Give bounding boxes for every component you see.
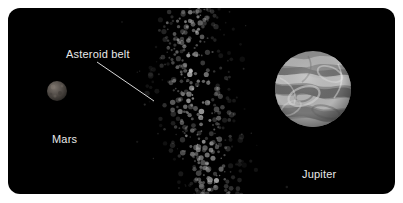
asteroid-particle: [200, 61, 205, 66]
asteroid-particle: [196, 134, 198, 136]
asteroid-particle: [189, 85, 194, 90]
asteroid-particle: [219, 66, 222, 69]
asteroid-particle: [180, 121, 185, 126]
asteroid-particle: [211, 98, 214, 101]
asteroid-particle: [199, 184, 205, 190]
asteroid-particle: [154, 89, 159, 94]
asteroid-particle: [217, 49, 220, 52]
asteroid-particle: [219, 167, 224, 172]
asteroid-particle: [188, 104, 193, 109]
asteroid-particle: [192, 156, 195, 159]
asteroid-particle: [214, 112, 215, 113]
asteroid-particle: [192, 153, 195, 156]
asteroid-particle: [187, 72, 192, 77]
asteroid-particle: [176, 20, 179, 23]
asteroid-particle: [196, 147, 201, 152]
asteroid-particle: [209, 131, 214, 136]
asteroid-particle: [178, 171, 183, 176]
asteroid-particle: [197, 80, 200, 83]
asteroid-particle: [182, 158, 184, 160]
asteroid-particle: [228, 71, 230, 73]
asteroid-particle: [223, 154, 225, 156]
asteroid-particle: [184, 77, 186, 79]
asteroid-particle: [196, 170, 202, 176]
asteroid-particle: [215, 143, 217, 145]
asteroid-particle: [202, 167, 205, 170]
asteroid-particle: [227, 110, 232, 115]
asteroid-particle: [164, 64, 166, 66]
asteroid-particle: [186, 92, 191, 97]
asteroid-particle: [180, 137, 185, 142]
asteroid-particle: [216, 87, 220, 91]
asteroid-particle: [225, 146, 230, 151]
asteroid-particle: [218, 53, 223, 58]
asteroid-particle: [243, 68, 245, 70]
asteroid-particle: [188, 36, 192, 40]
asteroid-particle: [182, 68, 183, 69]
asteroid-particle: [244, 108, 246, 110]
asteroid-particle: [227, 60, 229, 62]
asteroid-particle: [218, 8, 221, 10]
asteroid-particle: [227, 118, 231, 122]
asteroid-particle: [158, 117, 162, 121]
asteroid-particle: [185, 185, 186, 186]
asteroid-particle: [205, 192, 210, 194]
asteroid-particle: [239, 43, 242, 46]
asteroid-particle: [207, 37, 209, 39]
asteroid-particle: [213, 38, 217, 42]
asteroid-particle: [214, 182, 216, 184]
asteroid-particle: [286, 186, 289, 189]
asteroid-particle: [208, 119, 211, 122]
asteroid-particle: [220, 157, 222, 159]
illustration-canvas: Asteroid belt Mars Jupiter: [0, 0, 403, 203]
asteroid-particle: [149, 66, 153, 70]
asteroid-particle: [136, 141, 138, 143]
asteroid-particle: [197, 161, 200, 164]
asteroid-particle: [195, 11, 198, 14]
asteroid-particle: [202, 148, 206, 152]
asteroid-particle: [213, 104, 216, 107]
asteroid-particle: [230, 171, 232, 173]
asteroid-particle: [217, 123, 220, 126]
asteroid-particle: [121, 21, 123, 23]
asteroid-particle: [171, 49, 173, 51]
asteroid-particle: [236, 186, 241, 191]
asteroid-particle: [202, 140, 206, 144]
asteroid-particle: [193, 193, 195, 194]
asteroid-particle: [237, 161, 238, 162]
asteroid-particle: [162, 79, 164, 81]
asteroid-particle: [158, 17, 163, 22]
asteroid-particle: [239, 169, 243, 173]
asteroid-particle: [237, 162, 242, 167]
asteroid-particle: [173, 89, 175, 91]
asteroid-particle: [200, 160, 205, 165]
asteroid-particle: [224, 139, 226, 141]
asteroid-particle: [256, 145, 257, 146]
asteroid-particle: [229, 186, 234, 191]
asteroid-particle: [185, 134, 188, 137]
asteroid-particle: [170, 100, 175, 105]
asteroid-particle: [188, 184, 191, 187]
asteroid-particle: [240, 57, 245, 62]
mars-label: Mars: [52, 134, 77, 145]
asteroid-particle: [168, 80, 173, 85]
asteroid-particle: [242, 162, 247, 167]
asteroid-particle: [177, 25, 180, 28]
asteroid-particle: [178, 187, 180, 189]
asteroid-particle: [213, 185, 218, 190]
asteroid-particle: [193, 106, 198, 111]
asteroid-particle: [230, 138, 231, 139]
asteroid-particle: [227, 99, 231, 103]
asteroid-particle: [206, 168, 211, 173]
asteroid-particle: [185, 129, 188, 132]
asteroid-particle: [163, 141, 167, 145]
asteroid-particle: [194, 72, 197, 75]
asteroid-particle: [229, 11, 231, 13]
mars-body: [47, 81, 67, 101]
asteroid-particle: [216, 116, 221, 121]
asteroid-particle: [177, 90, 179, 92]
asteroid-particle: [217, 150, 220, 153]
asteroid-particle: [181, 59, 183, 61]
asteroid-particle: [219, 175, 221, 177]
asteroid-particle: [224, 189, 227, 192]
